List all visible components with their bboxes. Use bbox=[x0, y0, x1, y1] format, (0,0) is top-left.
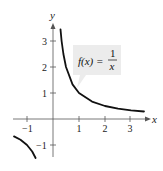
curve-negative-branch bbox=[14, 136, 36, 158]
chart-canvas: −1 1 2 3 3 2 1 −1 x y f(x) = 1 x bbox=[0, 0, 163, 171]
x-tick-label: 1 bbox=[77, 123, 82, 134]
function-label-numerator: 1 bbox=[110, 47, 116, 59]
y-tick-label: 3 bbox=[42, 36, 47, 47]
x-tick-label: −1 bbox=[22, 123, 33, 134]
y-axis-arrow-icon bbox=[51, 23, 56, 29]
x-tick-label: 2 bbox=[103, 123, 108, 134]
function-label-denominator: x bbox=[109, 60, 115, 72]
function-label-lhs: f(x) = bbox=[78, 55, 103, 68]
x-axis-arrow-icon bbox=[145, 117, 151, 122]
y-axis-label: y bbox=[49, 9, 55, 21]
y-tick-label: 2 bbox=[42, 62, 47, 73]
y-tick-label: −1 bbox=[36, 140, 47, 151]
x-tick-label: 3 bbox=[128, 123, 133, 134]
x-axis-label: x bbox=[151, 113, 157, 125]
y-tick-label: 1 bbox=[42, 88, 47, 99]
